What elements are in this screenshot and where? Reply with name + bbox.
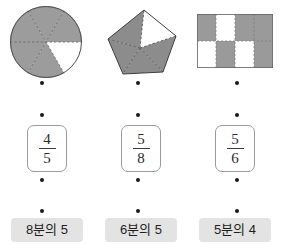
label-cell-3: 5분의 4 bbox=[188, 218, 282, 244]
fraction-numerator: 5 bbox=[231, 131, 239, 147]
connector-dot-label-3[interactable] bbox=[235, 209, 239, 213]
fraction-cell-1: 4 5 bbox=[0, 124, 94, 174]
fraction-row: 4 5 5 8 5 6 bbox=[0, 124, 282, 174]
fraction-box-3[interactable]: 5 6 bbox=[215, 125, 255, 172]
connector-dot-label-1[interactable] bbox=[40, 209, 44, 213]
connector-dot-shape-2[interactable] bbox=[136, 81, 140, 85]
grid-cells-shape bbox=[197, 14, 273, 68]
connector-dot-fraction-top-1[interactable] bbox=[40, 113, 44, 117]
fraction-numerator: 4 bbox=[43, 131, 51, 147]
fraction-denominator: 8 bbox=[137, 150, 145, 166]
fraction-bar bbox=[39, 148, 56, 149]
connector-dot-fraction-top-2[interactable] bbox=[136, 113, 140, 117]
fraction-box-2[interactable]: 5 8 bbox=[121, 125, 161, 172]
korean-fraction-label-3[interactable]: 5분의 4 bbox=[199, 218, 271, 242]
shape-cell-grid[interactable] bbox=[188, 0, 282, 78]
fraction-denominator: 6 bbox=[231, 150, 239, 166]
connector-dot-shape-1[interactable] bbox=[40, 81, 44, 85]
fraction-cell-2: 5 8 bbox=[94, 124, 188, 174]
pentagon-triangles-shape bbox=[106, 8, 178, 76]
circle-sectors-shape bbox=[10, 6, 82, 78]
connector-dot-label-2[interactable] bbox=[136, 209, 140, 213]
fraction-denominator: 5 bbox=[43, 150, 51, 166]
connector-dot-fraction-bottom-1[interactable] bbox=[40, 178, 44, 182]
fraction-bar bbox=[227, 148, 244, 149]
label-cell-1: 8분의 5 bbox=[0, 218, 94, 244]
korean-fraction-label-2[interactable]: 6분의 5 bbox=[105, 218, 177, 242]
shapes-row bbox=[0, 0, 282, 78]
connector-dot-shape-3[interactable] bbox=[235, 81, 239, 85]
fraction-bar bbox=[133, 148, 150, 149]
shape-cell-circle[interactable] bbox=[0, 0, 94, 78]
label-row: 8분의 5 6분의 5 5분의 4 bbox=[0, 218, 282, 244]
fraction-matching-worksheet: 4 5 5 8 5 6 8분의 5 bbox=[0, 0, 282, 244]
connector-dot-fraction-top-3[interactable] bbox=[235, 113, 239, 117]
connector-dot-fraction-bottom-2[interactable] bbox=[136, 178, 140, 182]
fraction-cell-3: 5 6 bbox=[188, 124, 282, 174]
connector-dot-fraction-bottom-3[interactable] bbox=[235, 178, 239, 182]
fraction-numerator: 5 bbox=[137, 131, 145, 147]
korean-fraction-label-1[interactable]: 8분의 5 bbox=[11, 218, 83, 242]
label-cell-2: 6분의 5 bbox=[94, 218, 188, 244]
shape-cell-pentagon[interactable] bbox=[94, 0, 188, 78]
fraction-box-1[interactable]: 4 5 bbox=[27, 125, 67, 172]
